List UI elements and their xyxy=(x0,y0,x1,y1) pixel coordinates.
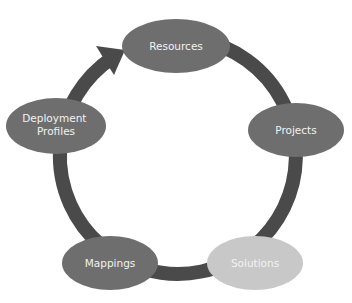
node-resources-label: Resources xyxy=(149,40,203,52)
node-resources[interactable]: Resources xyxy=(122,19,230,73)
node-deployment-profiles-label-line1: Deployment xyxy=(22,112,86,124)
node-deployment-profiles-label-line2: Profiles xyxy=(37,125,75,137)
node-projects[interactable]: Projects xyxy=(248,103,344,157)
node-mappings[interactable]: Mappings xyxy=(62,236,158,290)
cycle-diagram: Resources Projects Solutions Mappings De… xyxy=(0,0,352,303)
node-solutions-label: Solutions xyxy=(231,257,279,269)
node-deployment-profiles[interactable]: Deployment Profiles xyxy=(6,98,106,154)
node-solutions[interactable]: Solutions xyxy=(207,236,303,290)
node-mappings-label: Mappings xyxy=(85,257,136,269)
node-projects-label: Projects xyxy=(275,124,316,136)
